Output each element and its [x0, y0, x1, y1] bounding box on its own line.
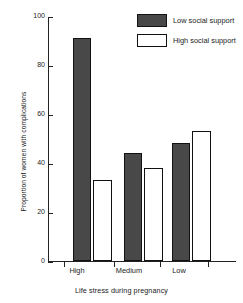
y-axis-line [48, 17, 49, 263]
legend-item-high-social-support: High social support [137, 33, 236, 47]
legend-label-high-social-support: High social support [173, 36, 236, 45]
y-tick-label-0: 0 [41, 257, 45, 264]
white-swatch-icon [137, 34, 167, 47]
bar-high-high-social-support [93, 180, 112, 261]
y-tick-label-40: 40 [37, 159, 45, 166]
dark-hatched-swatch-icon [137, 14, 167, 27]
y-tick-label-80: 80 [37, 61, 45, 68]
y-axis-title: Proportion of women with complications [20, 57, 27, 247]
bar-high-low-social-support [73, 38, 91, 261]
y-tick-0: 0 [48, 262, 53, 263]
chart-legend: Low social support High social support [137, 13, 236, 53]
x-tick-label-low: Low [159, 266, 199, 275]
x-axis-title: Life stress during pregnancy [0, 286, 243, 295]
bar-low-low-social-support [172, 143, 190, 261]
plot-area: 100 80 60 40 20 0 [48, 17, 236, 262]
y-tick-label-60: 60 [37, 110, 45, 117]
bar-low-high-social-support [192, 131, 211, 261]
legend-item-low-social-support: Low social support [137, 13, 236, 27]
x-tick-3 [208, 262, 209, 267]
legend-label-low-social-support: Low social support [173, 16, 234, 25]
y-tick-label-100: 100 [33, 12, 45, 19]
bar-medium-high-social-support [144, 168, 163, 261]
x-tick-label-medium: Medium [105, 266, 153, 275]
x-tick-label-high: High [57, 266, 97, 275]
bar-medium-low-social-support [124, 153, 142, 261]
y-tick-60: 60 [48, 115, 53, 116]
y-tick-40: 40 [48, 164, 53, 165]
y-tick-20: 20 [48, 213, 53, 214]
y-tick-label-20: 20 [37, 208, 45, 215]
y-tick-80: 80 [48, 66, 53, 67]
bar-chart-figure: Proportion of women with complications 1… [0, 0, 243, 303]
y-tick-100: 100 [48, 17, 53, 18]
